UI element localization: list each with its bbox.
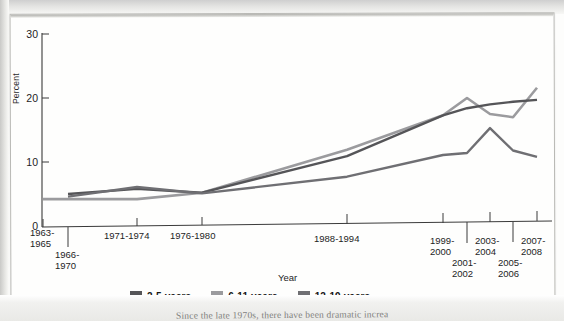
x-tick-1976-1980: 1976-1980: [170, 231, 215, 242]
x-tick-1971-1974: 1971-1974: [104, 231, 149, 242]
scanned-page: Percent 0 10 20 30 1963- 1965 1966- 1970…: [0, 0, 564, 321]
x-tick-1988-1994: 1988-1994: [314, 234, 359, 245]
y-tick-20: 20: [16, 92, 38, 104]
y-tick-10: 10: [16, 156, 38, 168]
x-tick-2005-2006: 2005- 2006: [498, 258, 522, 279]
y-tick-30: 30: [16, 28, 38, 40]
x-axis-title: Year: [278, 272, 297, 283]
x-tick-1999-2000: 1999- 2000: [430, 236, 454, 257]
figure-panel: [10, 12, 556, 298]
figure-caption: Since the late 1970s, there have been dr…: [176, 309, 388, 320]
x-tick-1966-1970: 1966- 1970: [55, 250, 79, 271]
page-left-edge: [0, 0, 9, 321]
x-tick-2007-2008: 2007- 2008: [521, 236, 545, 257]
x-tick-1963-1965: 1963- 1965: [30, 228, 54, 249]
x-tick-2001-2002: 2001- 2002: [452, 258, 476, 279]
panel-top-rule: [11, 13, 554, 18]
x-tick-2003-2004: 2003- 2004: [475, 236, 499, 257]
